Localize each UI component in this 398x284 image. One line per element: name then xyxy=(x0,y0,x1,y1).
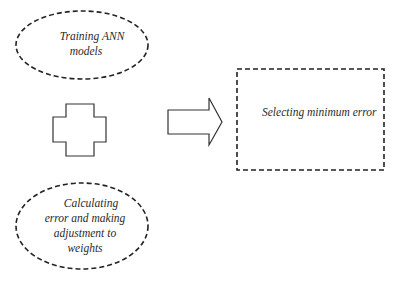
plus-cross-icon xyxy=(53,104,106,156)
right-arrow-icon xyxy=(168,98,222,145)
selecting-text: Selecting minimum error xyxy=(262,106,377,118)
selecting-label: Selecting minimum error xyxy=(262,105,382,120)
calculating-label: Calculating error and making adjustment … xyxy=(30,196,140,256)
calculating-line-4: weights xyxy=(30,241,140,256)
calculating-line-1: Calculating xyxy=(42,196,140,211)
calculating-line-2: error and making xyxy=(30,211,140,226)
training-line-2: models xyxy=(38,44,134,59)
training-line-1: Training ANN xyxy=(50,29,134,44)
training-label: Training ANN models xyxy=(50,29,134,59)
calculating-line-3: adjustment to xyxy=(30,226,140,241)
